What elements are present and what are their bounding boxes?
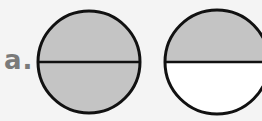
circle-1-bottom-half bbox=[38, 62, 140, 113]
circle-2-top-half bbox=[165, 10, 262, 62]
circle-2-bottom-half bbox=[165, 62, 262, 114]
circle-1-top-half bbox=[38, 11, 140, 62]
circle-2 bbox=[165, 10, 262, 114]
circle-1 bbox=[38, 11, 140, 113]
fraction-circles bbox=[0, 0, 262, 121]
